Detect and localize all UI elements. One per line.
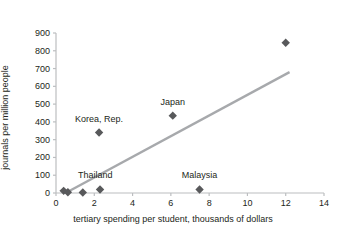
data-point-label: Korea, Rep. [75, 115, 123, 124]
x-axis-title: tertiary spending per student, thousands… [73, 215, 273, 224]
y-axis-tick-label: 600 [35, 82, 50, 91]
scatter-chart: 0100200300400500600700800900 02468101214… [0, 0, 347, 245]
y-axis-tick-label: 800 [35, 46, 50, 55]
plot-area [0, 0, 347, 245]
y-axis-title: journals per million people [1, 65, 10, 170]
x-axis-tick-label: 2 [92, 199, 97, 208]
y-axis-tick-label: 200 [35, 153, 50, 162]
x-axis-tick-label: 10 [242, 199, 252, 208]
y-axis-tick-label: 700 [35, 64, 50, 73]
data-point-marker [79, 188, 87, 196]
data-point-marker [169, 111, 177, 119]
data-point-marker [95, 128, 103, 136]
x-axis-tick-label: 0 [53, 199, 58, 208]
data-point-label: Japan [161, 98, 186, 107]
data-point-marker [195, 185, 203, 193]
y-axis-tick-label: 0 [45, 189, 50, 198]
x-axis-tick-label: 6 [168, 199, 173, 208]
x-axis-tick-label: 4 [130, 199, 135, 208]
x-axis-tick-label: 14 [319, 199, 329, 208]
y-axis-tick-label: 500 [35, 100, 50, 109]
x-axis-tick-label: 12 [281, 199, 291, 208]
x-axis-tick-label: 8 [207, 199, 212, 208]
y-axis-tick-label: 900 [35, 29, 50, 38]
y-axis-tick-label: 100 [35, 171, 50, 180]
data-point-marker [282, 39, 290, 47]
data-point-label: Malaysia [182, 171, 218, 180]
data-point-label: Thailand [78, 171, 113, 180]
y-axis-tick-label: 300 [35, 135, 50, 144]
data-point-marker [96, 185, 104, 193]
y-axis-tick-label: 400 [35, 117, 50, 126]
